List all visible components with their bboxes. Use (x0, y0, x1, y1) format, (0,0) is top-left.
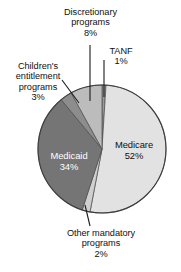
callout-other-mandatory-programs: Other mandatory programs 2% (46, 228, 156, 259)
callout-other-percent: 2% (46, 249, 156, 259)
callout-discretionary-percent: 8% (49, 28, 132, 38)
slice-label-medicare: Medicare 52% (106, 139, 162, 161)
slice-label-medicaid: Medicaid 34% (42, 150, 96, 172)
pie-chart-figure: Discretionary programs 8% TANF 1% Childr… (0, 0, 181, 272)
callout-tanf-line1: TANF (109, 46, 132, 56)
callout-children-line3: programs (19, 82, 57, 92)
callout-children-line2: entitlement (16, 71, 60, 81)
callout-childrens-entitlement-programs: Children's entitlement programs 3% (2, 61, 74, 103)
callout-discretionary-programs: Discretionary programs 8% (49, 7, 132, 38)
callout-other-line1: Other mandatory (67, 228, 135, 238)
callout-discretionary-line2: programs (71, 17, 109, 27)
callout-children-percent: 3% (2, 92, 74, 102)
callout-other-line2: programs (82, 238, 120, 248)
slice-label-medicaid-percent: 34% (42, 161, 96, 172)
slice-label-medicare-name: Medicare (115, 139, 153, 150)
callout-discretionary-line1: Discretionary (64, 7, 117, 17)
slice-label-medicaid-name: Medicaid (50, 150, 87, 161)
slice-label-medicare-percent: 52% (106, 150, 162, 161)
callout-tanf: TANF 1% (97, 46, 145, 67)
callout-tanf-percent: 1% (97, 56, 145, 66)
callout-children-line1: Children's (18, 61, 58, 71)
